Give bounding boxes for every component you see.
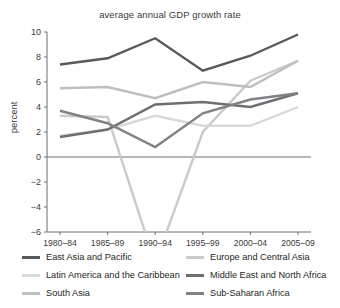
legend-item-label: Latin America and the Caribbean (46, 271, 180, 280)
legend-color-swatch (186, 274, 204, 277)
legend-item[interactable]: Europe and Central Asia (186, 249, 340, 266)
y-tick-label: 10 (31, 27, 41, 37)
legend-color-swatch (22, 274, 40, 277)
legend-item[interactable]: East Asia and Pacific (22, 249, 182, 266)
y-tick-label: 6 (36, 77, 41, 87)
data-series-group (60, 35, 298, 249)
x-tick-label: 1980–84 (43, 238, 77, 248)
y-tick-label: −2 (31, 177, 41, 187)
legend-column-left: East Asia and PacificLatin America and t… (22, 249, 182, 303)
legend-color-swatch (186, 256, 204, 259)
legend-color-swatch (22, 256, 40, 259)
legend-color-swatch (22, 292, 40, 295)
x-tick-label: 1995–99 (186, 238, 220, 248)
y-axis-ticks: 1086420−2−4−6 (31, 27, 47, 237)
x-tick-label: 1985–89 (91, 238, 125, 248)
x-axis-ticks: 1980–841985–891990–941995–992000–042005–… (43, 232, 315, 248)
y-tick-label: 4 (36, 102, 41, 112)
y-tick-label: −6 (31, 227, 41, 237)
legend-item-label: Europe and Central Asia (210, 253, 310, 262)
legend-item[interactable]: Latin America and the Caribbean (22, 267, 182, 284)
legend-item[interactable]: South Asia (22, 285, 182, 302)
legend-item-label: Sub-Saharan Africa (210, 289, 290, 298)
series-line (60, 35, 298, 71)
x-tick-label: 1990–94 (138, 238, 172, 248)
legend-item-label: East Asia and Pacific (46, 253, 132, 262)
series-line (60, 61, 298, 99)
plot-area: 1086420−2−4−6 1980–841985–891990–941995–… (0, 0, 340, 248)
x-tick-label: 2005–09 (281, 238, 315, 248)
y-tick-label: 0 (36, 152, 41, 162)
gdp-growth-chart: average annual GDP growth rate percent 1… (0, 0, 340, 308)
legend-item[interactable]: Sub-Saharan Africa (186, 285, 340, 302)
y-tick-label: 2 (36, 127, 41, 137)
series-line (60, 61, 298, 248)
legend-item-label: Middle East and North Africa (210, 271, 326, 280)
legend-item-label: South Asia (46, 289, 90, 298)
y-tick-label: −4 (31, 202, 41, 212)
legend-item[interactable]: Middle East and North Africa (186, 267, 340, 284)
legend-color-swatch (186, 292, 204, 295)
legend-column-right: Europe and Central AsiaMiddle East and N… (186, 249, 340, 303)
x-tick-label: 2000–04 (234, 238, 268, 248)
chart-legend: East Asia and PacificLatin America and t… (22, 249, 334, 305)
y-tick-label: 8 (36, 52, 41, 62)
